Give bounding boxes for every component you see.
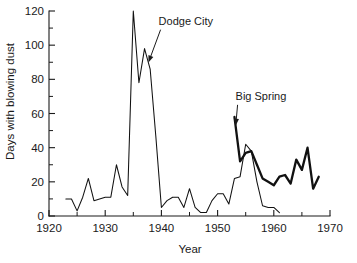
x-axis-minor-ticks xyxy=(77,212,302,216)
y-axis-tick-labels: 020406080100120 xyxy=(25,5,44,222)
chart-figure: 020406080100120 Days with blowing dust 1… xyxy=(0,0,357,263)
y-tick-label-80: 80 xyxy=(31,73,44,85)
x-tick-label-1960: 1960 xyxy=(261,222,287,234)
x-tick-label-1920: 1920 xyxy=(36,222,62,234)
series-line-dodge-city xyxy=(66,11,280,213)
chart-svg: 020406080100120 Days with blowing dust 1… xyxy=(0,0,357,263)
x-axis-group: 192019301940195019601970 Year xyxy=(36,210,343,255)
annotation-label-big-spring: Big Spring xyxy=(236,90,287,102)
x-tick-label-1940: 1940 xyxy=(149,222,175,234)
y-axis-group: 020406080100120 Days with blowing dust xyxy=(4,5,55,222)
annotation-layer: Dodge CityBig Spring xyxy=(148,15,286,126)
annotation-arrow-dodge-city xyxy=(150,30,161,59)
y-tick-label-120: 120 xyxy=(25,5,44,17)
y-tick-label-20: 20 xyxy=(31,176,44,188)
x-tick-label-1950: 1950 xyxy=(205,222,231,234)
y-tick-label-0: 0 xyxy=(38,210,44,222)
x-tick-label-1930: 1930 xyxy=(92,222,118,234)
y-axis-title: Days with blowing dust xyxy=(4,42,16,160)
y-tick-label-60: 60 xyxy=(31,108,44,120)
series-line-big-spring xyxy=(234,117,318,189)
annotation-arrowhead-dodge-city xyxy=(148,55,153,62)
y-axis-major-ticks xyxy=(49,11,55,216)
y-tick-label-40: 40 xyxy=(31,142,44,154)
x-axis-title: Year xyxy=(178,243,201,255)
x-axis-tick-labels: 192019301940195019601970 xyxy=(36,222,343,234)
annotation-label-dodge-city: Dodge City xyxy=(159,15,214,27)
x-tick-label-1970: 1970 xyxy=(317,222,343,234)
y-tick-label-100: 100 xyxy=(25,39,44,51)
data-series-layer xyxy=(66,11,319,213)
